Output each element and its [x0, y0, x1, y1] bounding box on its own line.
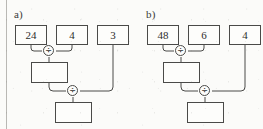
diagram-b-intermediate-result[interactable] [163, 62, 200, 83]
diagram-b-division-icon-2: ÷ [199, 85, 210, 96]
diagram-b-input-1: 48 [147, 25, 179, 45]
diagram-b-input-2: 6 [188, 25, 220, 45]
worksheet-page: a) 24 4 3 ÷ ÷ b) [0, 0, 263, 129]
connector-b-intermediate-to-op2 [181, 83, 198, 91]
connector-b-input3-to-op2 [212, 45, 245, 91]
connector-b-input2-to-op1 [188, 45, 204, 51]
connector-b-input1-to-op1 [163, 45, 174, 51]
diagram-b-final-result[interactable] [187, 102, 224, 123]
diagram-b-division-icon-1: ÷ [175, 45, 186, 56]
diagram-b-input-3: 4 [229, 25, 261, 45]
